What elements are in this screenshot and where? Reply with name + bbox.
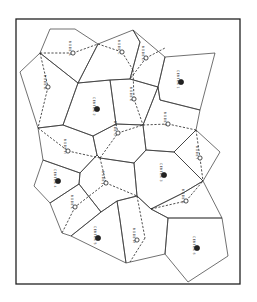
minor-node: NODE B: [43, 75, 50, 90]
dashed-link: [100, 133, 118, 158]
polygon-cell: [20, 53, 78, 128]
minor-node: NODE I: [195, 146, 202, 160]
polygon-cell: [110, 79, 158, 125]
minor-node: NODE L: [70, 195, 77, 210]
node-label: NODE G: [113, 121, 117, 136]
major-center-node: CENTER 5: [93, 226, 101, 245]
dashed-link: [186, 181, 203, 201]
dashed-link: [62, 207, 75, 233]
node-label: NODE C: [117, 40, 121, 55]
map-canvas: NODE ANODE BNODE CNODE DCENTER 1CENTER 2…: [0, 0, 257, 302]
minor-node: NODE G: [113, 121, 120, 136]
minor-node: NODE C: [117, 40, 124, 55]
minor-node: NODE D: [141, 46, 148, 61]
node-label: NODE D: [141, 46, 145, 61]
dashed-link: [118, 125, 143, 133]
dashed-link: [122, 52, 133, 70]
node-label: CENTER 6: [192, 236, 196, 255]
dashed-link: [200, 158, 203, 181]
node-label: NODE J: [101, 171, 105, 185]
major-center-node: CENTER 1: [176, 70, 184, 89]
node-label: NODE I: [195, 146, 199, 160]
map-frame: [16, 19, 240, 284]
minor-node: NODE K: [181, 189, 188, 204]
node-label: NODE F: [163, 112, 167, 127]
dashed-link: [68, 151, 100, 158]
node-label: NODE L: [70, 195, 74, 210]
node-label: CENTER 5: [93, 226, 97, 245]
minor-node: NODE A: [68, 41, 75, 56]
node-label: NODE K: [181, 189, 185, 204]
minor-node: NODE H: [63, 139, 70, 154]
minor-node: NODE J: [101, 171, 108, 185]
major-center-node: CENTER 4: [53, 169, 61, 188]
dashed-link: [151, 201, 186, 209]
node-label: CENTER 1: [176, 70, 180, 89]
node-label: CENTER 2: [92, 97, 96, 116]
polygon-cell: [71, 201, 126, 263]
node-label: NODE E: [129, 87, 133, 102]
node-label: NODE M: [132, 228, 136, 244]
polygon-cell: [143, 87, 200, 152]
dashed-link: [146, 48, 165, 58]
thiessen-polygon-map: NODE ANODE BNODE CNODE DCENTER 1CENTER 2…: [0, 0, 257, 302]
polygon-cell: [117, 196, 168, 263]
node-label: CENTER 3: [159, 163, 163, 182]
minor-node: NODE E: [129, 87, 136, 102]
node-label: NODE A: [68, 41, 72, 56]
minor-node: NODE M: [132, 228, 139, 244]
dashed-link: [134, 99, 143, 125]
polygon-cell: [40, 29, 98, 83]
minor-node: NODE F: [163, 112, 170, 127]
polygon-cell: [78, 30, 140, 83]
major-center-node: CENTER 2: [92, 97, 100, 116]
dashed-link: [38, 87, 48, 128]
node-label: NODE H: [63, 139, 67, 154]
dashed-link: [75, 183, 106, 207]
major-center-node: CENTER 3: [159, 163, 167, 182]
major-center-node: CENTER 6: [192, 236, 200, 255]
dashed-link: [168, 124, 196, 130]
node-label: CENTER 4: [53, 169, 57, 188]
dashed-link: [106, 183, 137, 196]
node-label: NODE B: [43, 75, 47, 90]
